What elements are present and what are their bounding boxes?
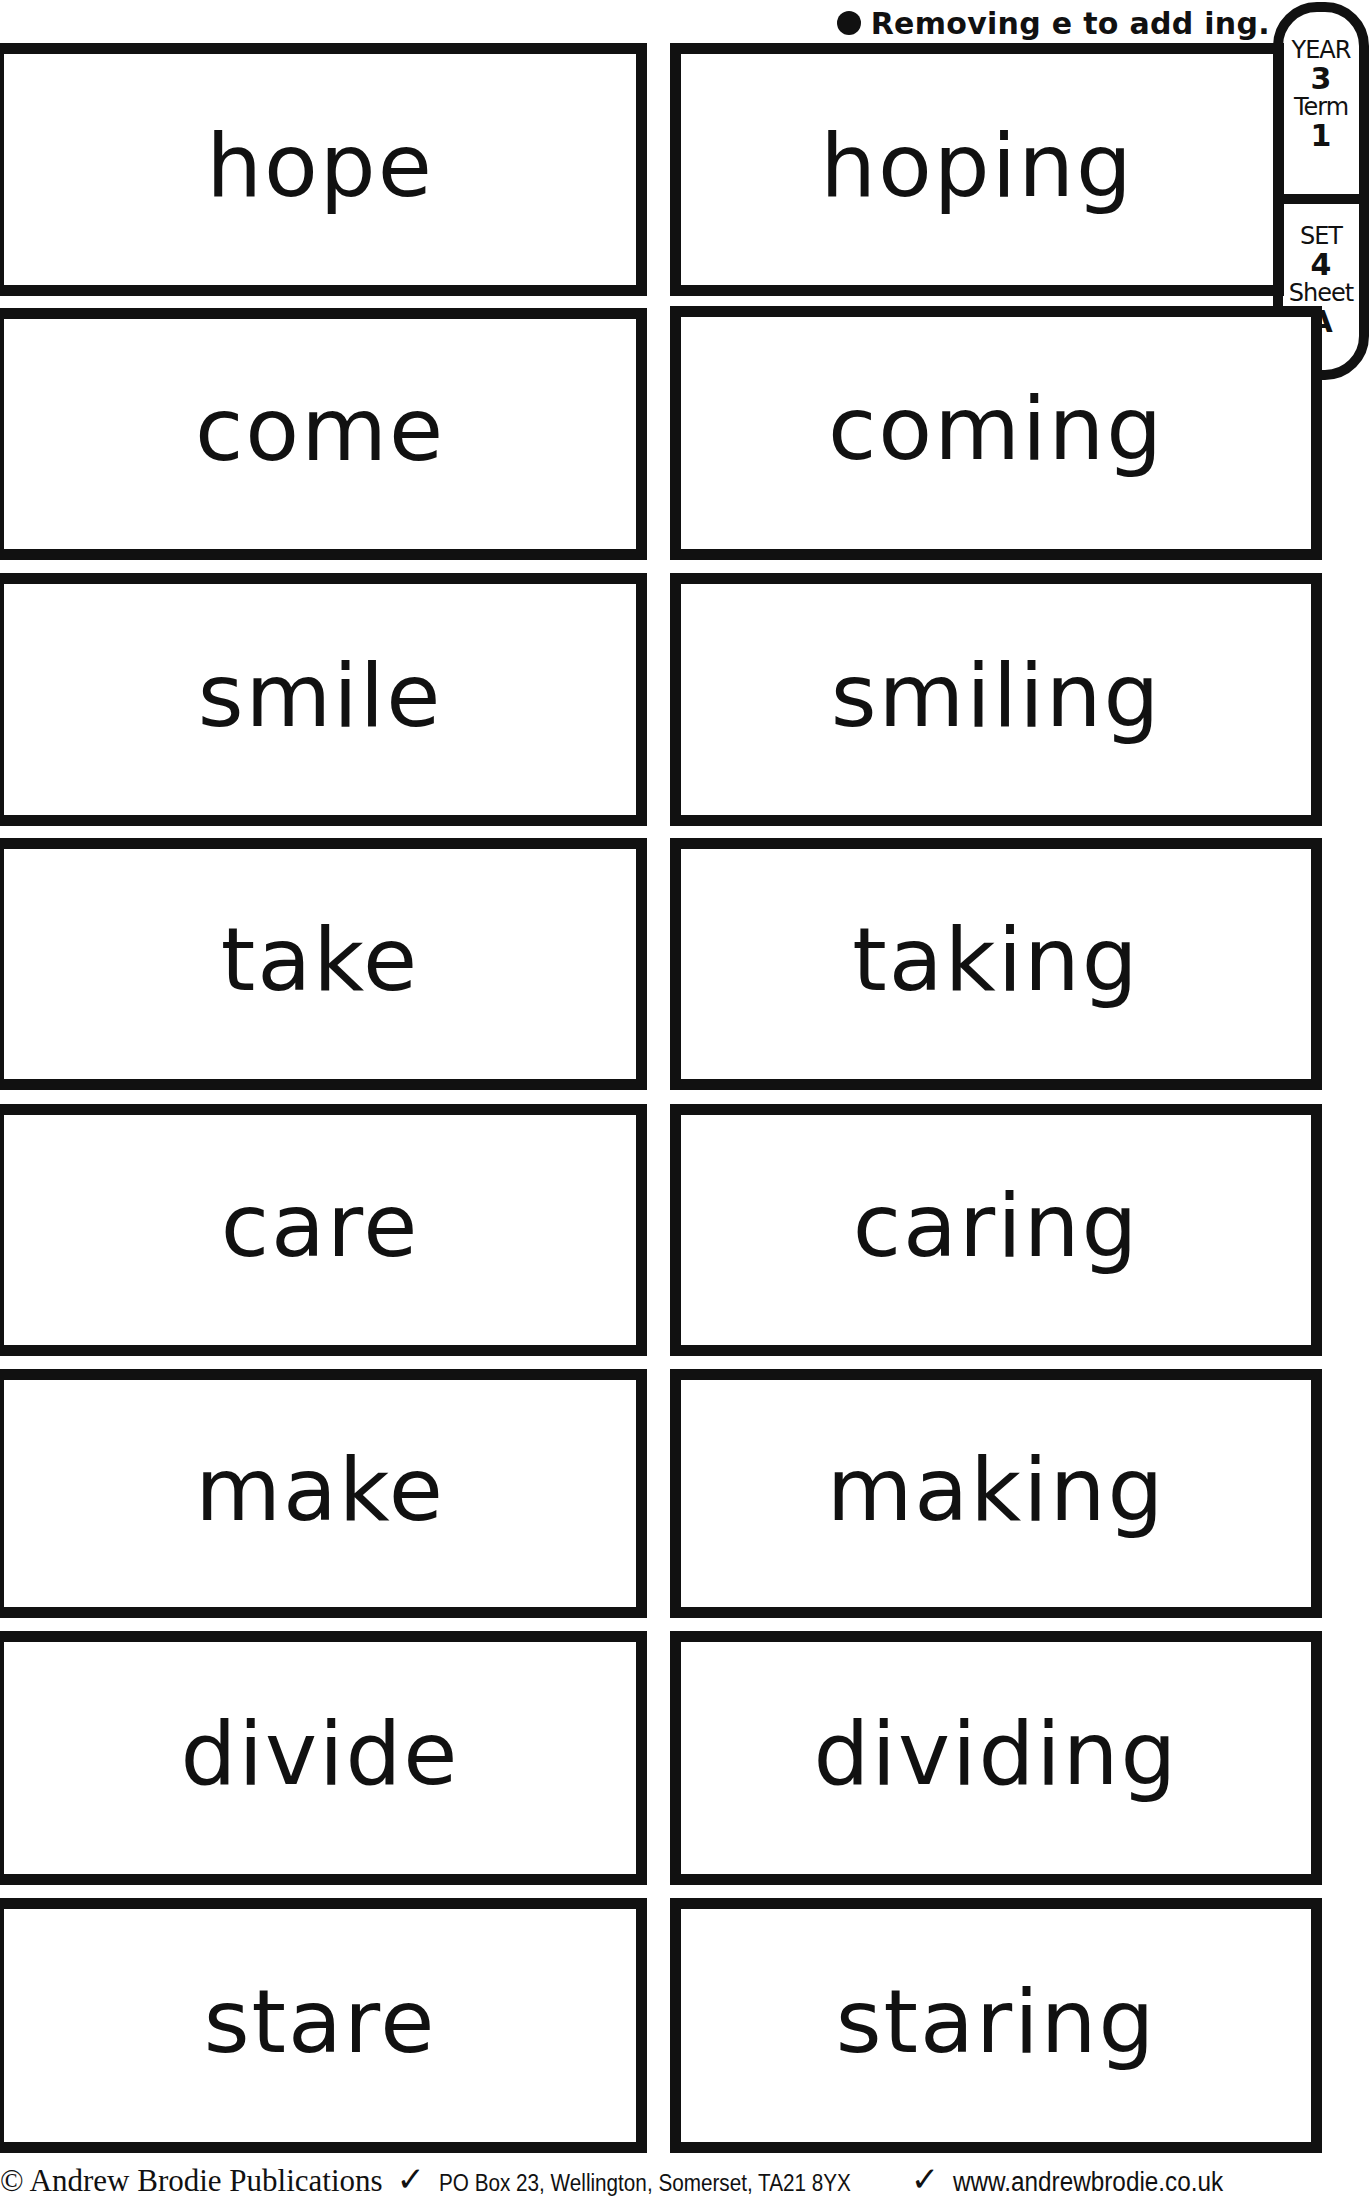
worksheet-heading: Removing e to add ing. — [830, 2, 1270, 44]
word-ing: dividing — [814, 1710, 1179, 1806]
worksheet-title: Removing e to add ing. — [871, 6, 1270, 41]
tab-divider — [1283, 194, 1359, 204]
publisher-address: PO Box 23, Wellington, Somerset, TA21 8Y… — [439, 2170, 851, 2197]
word-base: smile — [198, 652, 443, 748]
word-ing: coming — [828, 385, 1164, 481]
word-card-ing: dividing — [670, 1631, 1322, 1885]
word-base: care — [221, 1182, 420, 1278]
term-label: Term — [1294, 95, 1348, 120]
word-card-base: come — [0, 308, 647, 560]
set-value: 4 — [1311, 249, 1332, 281]
word-base: divide — [181, 1710, 460, 1806]
word-card-ing: caring — [670, 1104, 1322, 1356]
word-card-ing: smiling — [670, 573, 1322, 826]
word-base: come — [195, 386, 445, 482]
word-card-base: stare — [0, 1898, 647, 2153]
word-ing: taking — [852, 916, 1139, 1012]
word-ing: hoping — [820, 122, 1134, 218]
set-label: SET — [1300, 224, 1342, 249]
word-card-ing: taking — [670, 838, 1322, 1090]
word-card-base: divide — [0, 1631, 647, 1885]
word-base: hope — [206, 122, 434, 218]
year-label: YEAR — [1292, 38, 1351, 63]
tick-icon: ✓ — [911, 2159, 940, 2199]
word-card-ing: staring — [670, 1898, 1322, 2153]
word-ing: smiling — [831, 652, 1162, 748]
word-base: stare — [204, 1978, 437, 2074]
word-card-base: make — [0, 1369, 647, 1618]
year-value: 3 — [1311, 63, 1332, 95]
word-ing: caring — [853, 1182, 1140, 1278]
publisher-name: © Andrew Brodie Publications — [0, 2163, 383, 2199]
word-card-ing: making — [670, 1369, 1322, 1618]
word-card-base: hope — [0, 43, 647, 296]
word-card-base: care — [0, 1104, 647, 1356]
word-card-base: take — [0, 838, 647, 1090]
tick-icon: ✓ — [397, 2159, 426, 2199]
word-ing: making — [827, 1446, 1166, 1542]
word-card-base: smile — [0, 573, 647, 826]
word-base: make — [195, 1446, 445, 1542]
word-card-ing: coming — [670, 306, 1322, 560]
publisher-footer: © Andrew Brodie Publications ✓ PO Box 23… — [0, 2159, 1358, 2195]
word-card-ing: hoping — [670, 43, 1284, 296]
sheet-label: Sheet — [1289, 281, 1353, 306]
term-value: 1 — [1311, 120, 1332, 152]
publisher-website: www.andrewbrodie.co.uk — [953, 2167, 1223, 2198]
bullet-icon — [837, 11, 861, 35]
word-base: take — [221, 916, 419, 1012]
word-ing: staring — [836, 1978, 1157, 2074]
year-term-section: YEAR 3 Term 1 — [1283, 38, 1359, 151]
